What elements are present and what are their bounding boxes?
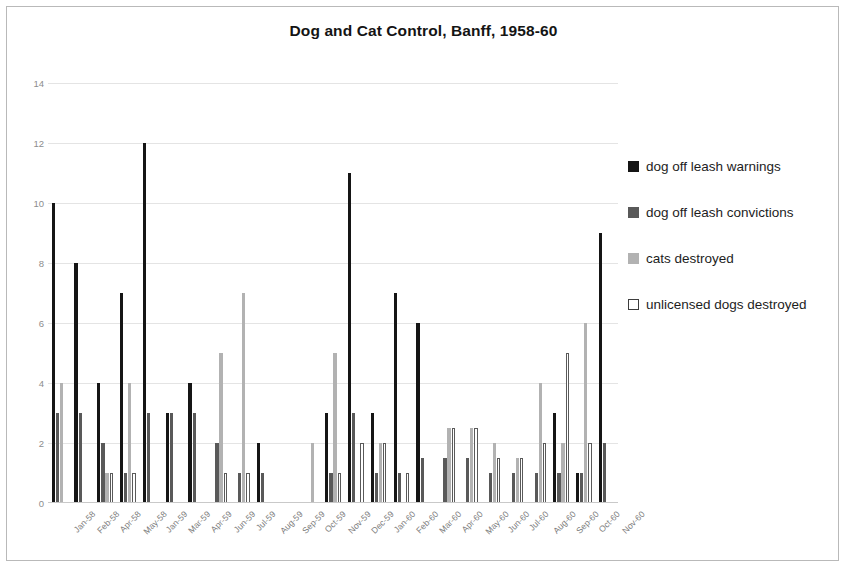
bar: [219, 353, 222, 503]
bar: [311, 443, 314, 503]
legend-item[interactable]: cats destroyed: [628, 250, 838, 267]
bar-group: [116, 83, 139, 503]
x-tick-label: Jun-60: [505, 509, 531, 535]
x-tick-label: May-58: [141, 509, 168, 536]
y-tick-label: 14: [18, 78, 44, 89]
x-tick-label: Aug-60: [551, 509, 578, 536]
bar: [493, 443, 496, 503]
bar: [56, 413, 59, 503]
bar: [101, 443, 104, 503]
filled-black-square-icon: [628, 161, 639, 172]
bar: [443, 458, 446, 503]
y-tick-label: 8: [18, 258, 44, 269]
chart-title: Dog and Cat Control, Banff, 1958-60: [0, 22, 847, 40]
bar: [242, 293, 245, 503]
y-tick-label: 2: [18, 438, 44, 449]
y-tick-label: 12: [18, 138, 44, 149]
bar: [128, 383, 131, 503]
bar: [52, 203, 55, 503]
bar: [224, 473, 227, 503]
y-axis: 02468101214: [14, 83, 44, 503]
bars-layer: [48, 83, 618, 503]
x-tick-label: Oct-60: [596, 509, 621, 534]
bar: [421, 458, 424, 503]
bar: [193, 413, 196, 503]
bar-group: [322, 83, 345, 503]
bar: [561, 443, 564, 503]
bar: [261, 473, 264, 503]
bar: [553, 413, 556, 503]
bar: [338, 473, 341, 503]
bar-group: [413, 83, 436, 503]
bar: [360, 443, 363, 503]
bar: [512, 473, 515, 503]
bar: [147, 413, 150, 503]
bar-group: [185, 83, 208, 503]
bar: [520, 458, 523, 503]
x-tick-label: Apr-60: [460, 509, 485, 534]
bar-group: [230, 83, 253, 503]
bar: [120, 293, 123, 503]
bar: [79, 413, 82, 503]
legend-item[interactable]: dog off leash warnings: [628, 158, 838, 175]
x-tick-label: Jan-60: [391, 509, 417, 535]
x-tick-label: Apr-59: [209, 509, 234, 534]
bar: [170, 413, 173, 503]
y-tick-label: 10: [18, 198, 44, 209]
bar-group: [458, 83, 481, 503]
x-tick-label: Nov-60: [620, 509, 647, 536]
bar-group: [208, 83, 231, 503]
bar: [371, 413, 374, 503]
bar-group: [139, 83, 162, 503]
bar: [489, 473, 492, 503]
bar: [132, 473, 135, 503]
bar-group: [390, 83, 413, 503]
x-tick-label: Aug-59: [278, 509, 305, 536]
x-tick-label: Feb-60: [414, 509, 440, 535]
bar: [124, 473, 127, 503]
bar: [105, 473, 108, 503]
bar: [543, 443, 546, 503]
bar: [166, 413, 169, 503]
bar: [470, 428, 473, 503]
bar: [394, 293, 397, 503]
x-tick-label: Jan-59: [163, 509, 189, 535]
legend-item-label: dog off leash warnings: [646, 158, 781, 175]
y-tick-label: 0: [18, 498, 44, 509]
bar-group: [436, 83, 459, 503]
bar: [452, 428, 455, 503]
legend-item[interactable]: unlicensed dogs destroyed: [628, 296, 838, 313]
bar-group: [572, 83, 595, 503]
bar: [557, 473, 560, 503]
bar-group: [481, 83, 504, 503]
legend-item-label: unlicensed dogs destroyed: [646, 296, 807, 313]
bar-group: [94, 83, 117, 503]
x-tick-label: Sep-59: [301, 509, 328, 536]
x-tick-label: Jan-58: [72, 509, 98, 535]
x-tick-label: Nov-59: [346, 509, 373, 536]
bar: [74, 263, 77, 503]
chart-legend: dog off leash warningsdog off leash conv…: [628, 158, 838, 342]
bar: [539, 383, 542, 503]
bar: [143, 143, 146, 503]
bar: [416, 323, 419, 503]
bar: [588, 443, 591, 503]
bar: [329, 473, 332, 503]
bar: [576, 473, 579, 503]
bar: [60, 383, 63, 503]
bar: [383, 443, 386, 503]
bar: [474, 428, 477, 503]
filled-lightgray-square-icon: [628, 253, 639, 264]
bar: [352, 413, 355, 503]
y-tick-label: 6: [18, 318, 44, 329]
bar: [215, 443, 218, 503]
bar-group: [299, 83, 322, 503]
bar-group: [504, 83, 527, 503]
bar-group: [367, 83, 390, 503]
x-tick-label: Mar-60: [437, 509, 463, 535]
bar: [379, 443, 382, 503]
bar: [398, 473, 401, 503]
x-axis: Jan-58Feb-58Apr-58May-58Jan-59Mar-59Apr-…: [48, 503, 618, 565]
bar-group: [71, 83, 94, 503]
legend-item[interactable]: dog off leash convictions: [628, 204, 838, 221]
